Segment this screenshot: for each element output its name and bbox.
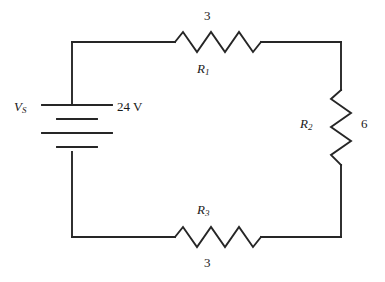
resistor-r1-zigzag (175, 32, 261, 52)
circuit-diagram: VS 24 V 3 R1 R2 6 R3 3 (0, 0, 385, 282)
voltage-source-subscript: S (22, 105, 27, 115)
voltage-source-letter: V (14, 99, 22, 114)
voltage-source-label: VS (14, 100, 26, 115)
resistor-r1-value: 3 (204, 9, 211, 22)
resistor-r3-label: R3 (197, 203, 209, 218)
resistor-r1-label: R1 (197, 62, 209, 77)
resistor-r2-letter: R (300, 116, 308, 131)
resistor-r3-letter: R (197, 202, 205, 217)
circuit-schematic-canvas (0, 0, 385, 282)
resistor-r3-subscript: 3 (205, 208, 210, 218)
resistor-r3-zigzag (175, 227, 261, 247)
resistor-r3-value: 3 (204, 256, 211, 269)
resistor-r2-value: 6 (361, 117, 368, 130)
resistor-r2-zigzag (331, 90, 351, 165)
resistor-r1-letter: R (197, 61, 205, 76)
resistor-r2-subscript: 2 (308, 122, 313, 132)
resistor-r1-subscript: 1 (205, 67, 210, 77)
resistor-r2-label: R2 (300, 117, 312, 132)
voltage-source-value: 24 V (117, 100, 142, 113)
